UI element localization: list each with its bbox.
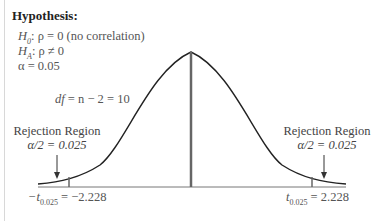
right-critical-value: t0.025 = 2.228 <box>286 190 349 207</box>
right-rejection-label: Rejection Region α/2 = 0.025 <box>277 124 377 152</box>
left-critical-value: −t0.025 = −2.228 <box>28 190 106 207</box>
left-rejection-label: Rejection Region α/2 = 0.025 <box>7 124 107 152</box>
t-distribution-plot <box>0 0 377 221</box>
